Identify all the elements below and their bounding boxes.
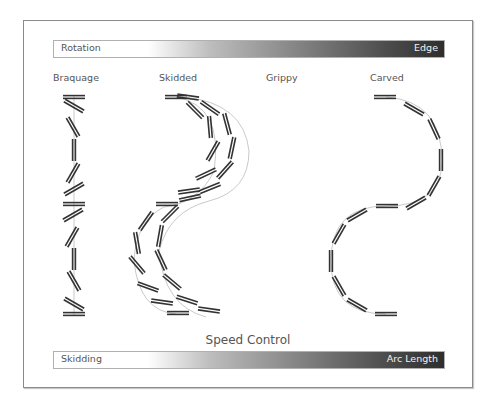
carved-track [329, 95, 443, 316]
braquage-track [62, 95, 85, 316]
diagram-frame: Rotation Edge Braquage Skidded Grippy Ca… [23, 20, 473, 388]
skidding-label: Skidding [61, 353, 102, 364]
speed-control-title: Speed Control [24, 333, 472, 347]
arc-length-label: Arc Length [387, 353, 438, 364]
skidding-arc-length-gradient-bar: Skidding Arc Length [53, 351, 445, 369]
